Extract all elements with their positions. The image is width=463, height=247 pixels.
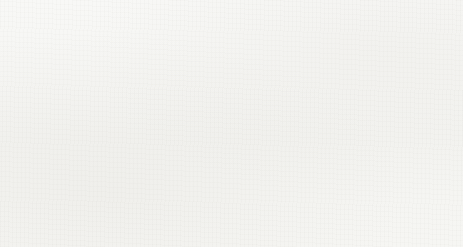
ion-chloride: Cl− [78,174,122,218]
ion-sodium-sphere [345,75,364,94]
panel-b-space-filling-crystal: (b) [232,0,463,247]
ion-sodium: Na+ [52,57,82,87]
ion-chloride: Cl− [11,174,55,218]
ion-symbol: Na [26,160,36,170]
ion-chloride-sphere [339,94,369,124]
ion-sodium: Na+ [119,119,149,149]
ion-symbol: Cl [194,36,203,46]
ion-symbol: Na [93,98,103,108]
ion-sodium-sphere [371,51,390,70]
ion-sodium: Na+ [52,181,82,211]
ion-chloride-sphere [366,168,396,198]
ion-symbol: Cl [60,36,69,46]
ion-symbol: Na [194,129,204,139]
ion-sodium: Na+ [85,26,115,56]
ion-sodium-sphere [318,51,337,70]
ion-sodium: Na+ [152,26,182,56]
ion-sodium-sphere [371,149,390,168]
ion-chloride-sphere [233,192,263,222]
ion-symbol: Cl [26,129,35,139]
ion-sodium-sphere [318,149,337,168]
ion-sodium: Na+ [85,88,115,118]
ion-symbol: Na [160,98,170,108]
ion-sodium-sphere [318,198,337,217]
ion-symbol: Cl [127,36,136,46]
ion-symbol: Cl [60,98,69,108]
ion-symbol: Cl [160,191,169,201]
ion-chloride-sphere [286,192,316,222]
ion-chloride-sphere [313,168,343,198]
ion-symbol: Cl [194,98,203,108]
ion-sodium-sphere [292,124,311,143]
ion-symbol: Na [26,36,36,46]
ion-sodium-sphere [265,100,284,119]
panel-a-labelled-lattice: Na+Cl−Na+Cl−Na+Cl−Cl−Na+Cl−Na+Cl−Na+Na+C… [0,0,232,247]
ion-symbol: Cl [26,191,35,201]
ion-chloride-sphere [339,192,369,222]
ion-symbol: Na [127,67,137,77]
ion-chloride-sphere [366,70,396,100]
ion-symbol: Na [93,160,103,170]
ion-symbol: Na [160,160,170,170]
ion-sodium: Na+ [186,57,216,87]
ion-symbol: Na [194,67,204,77]
ion-sodium-sphere [371,100,390,119]
ion-symbol: Na [160,36,170,46]
ion-chloride-sphere [260,70,290,100]
ion-sodium: Na+ [152,88,182,118]
ion-chloride-sphere [286,45,316,75]
ion-chloride-sphere [313,119,343,149]
ion-symbol: Na [127,129,137,139]
ion-sodium: Na+ [186,181,216,211]
ion-sodium-sphere [239,124,258,143]
ion-sodium: Na+ [186,119,216,149]
ion-chloride-sphere [233,143,263,173]
ion-symbol: Na [26,98,36,108]
ion-symbol: Cl [160,129,169,139]
ion-symbol: Cl [26,67,35,77]
ion-chloride-sphere [339,45,369,75]
ion-sodium: Na+ [18,26,48,56]
ion-chloride-sphere [392,45,422,75]
ion-sodium-sphere [292,75,311,94]
ion-sodium-sphere [239,173,258,192]
ion-chloride-sphere [313,70,343,100]
ion-chloride-sphere [233,94,263,124]
ion-sodium: Na+ [52,119,82,149]
ion-symbol: Cl [160,67,169,77]
ion-sodium-sphere [371,198,390,217]
ion-sodium: Na+ [18,150,48,180]
ion-sodium-sphere [265,198,284,217]
ion-sodium-sphere [265,149,284,168]
ion-sodium: Na+ [85,150,115,180]
ion-sodium: Na+ [119,57,149,87]
ion-chloride: Cl− [145,174,189,218]
ion-symbol: Cl [93,129,102,139]
ion-sodium-sphere [318,100,337,119]
ion-symbol: Cl [127,160,136,170]
ion-sodium: Na+ [18,88,48,118]
ion-chloride-sphere [392,192,422,222]
ion-sodium-sphere [398,124,417,143]
ion-sodium-sphere [398,75,417,94]
ion-lattice-3d [246,8,460,206]
ion-symbol: Na [60,67,70,77]
ion-symbol: Cl [127,98,136,108]
ion-symbol: Na [60,191,70,201]
ion-symbol: Cl [60,160,69,170]
ion-chloride-sphere [366,119,396,149]
ion-sodium-sphere [265,51,284,70]
ion-sodium: Na+ [119,181,149,211]
ion-symbol: Na [93,36,103,46]
ion-chloride-sphere [286,143,316,173]
ion-sodium-sphere [292,173,311,192]
ion-lattice-2d: Na+Cl−Na+Cl−Na+Cl−Cl−Na+Cl−Na+Cl−Na+Na+C… [12,21,210,203]
ion-symbol: Na [194,191,204,201]
ion-sodium-sphere [345,124,364,143]
ion-chloride-sphere [233,45,263,75]
ion-sodium: Na+ [152,150,182,180]
ion-chloride-sphere [392,143,422,173]
figure-nacl-lattice: Na+Cl−Na+Cl−Na+Cl−Cl−Na+Cl−Na+Cl−Na+Na+C… [0,0,463,247]
ion-chloride-sphere [339,143,369,173]
ion-chloride-sphere [392,94,422,124]
